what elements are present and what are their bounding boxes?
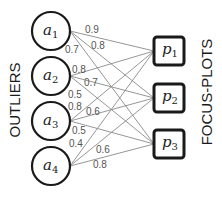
outlier-node-a1: a1 [32,12,70,50]
outliers-axis-label: OUTLIERS [6,62,23,137]
edge-weight-label: 0.8 [68,101,82,112]
focus-plots-axis-label: FOCUS-PLOTS [198,39,215,146]
edge-weight-label: 0.5 [68,89,82,100]
edge-labels-layer: 0.90.80.70.80.70.50.80.60.50.40.60.8 [65,24,110,170]
focus-plots-layer: p1p2p3 [154,37,184,158]
edge-weight-label: 0.8 [91,40,105,51]
edge-weight-label: 0.7 [84,77,98,88]
outlier-node-a3: a3 [32,102,70,140]
outlier-node-a2: a2 [32,57,70,95]
edge-weight-label: 0.6 [96,144,110,155]
focus-plot-node-p1: p1 [154,37,184,65]
edge-weight-label: 0.9 [85,24,99,35]
edge-weight-label: 0.8 [72,64,86,75]
edge-a3-p2 [70,98,154,121]
edge-weight-label: 0.7 [65,44,79,55]
edge-weight-label: 0.5 [72,125,86,136]
outliers-focus-plots-diagram: 0.90.80.70.80.70.50.80.60.50.40.60.8 a1a… [0,0,222,197]
edge-weight-label: 0.4 [69,138,83,149]
edge-weight-label: 0.8 [93,159,107,170]
focus-plot-node-p3: p3 [154,130,184,158]
edge-weight-label: 0.6 [86,106,100,117]
outliers-layer: a1a2a3a4 [32,12,70,185]
edge-a2-p2 [70,76,154,98]
outlier-node-a4: a4 [32,147,70,185]
focus-plot-node-p2: p2 [154,84,184,112]
